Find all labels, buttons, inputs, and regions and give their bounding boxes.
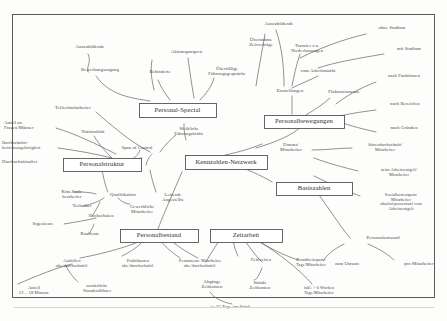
connector-line — [312, 148, 352, 150]
leaf-label-durchschnittsalter[interactable]: Durchschnittsalter — [2, 160, 58, 165]
leaf-label-inkl_6_wochen[interactable]: inkl. > 6 Wochen Tage/Mitarbeiter — [290, 286, 348, 295]
leaf-label-anteil_frauen[interactable]: Anteil an Frauen/Männer — [4, 121, 52, 131]
leaf-label-kfm_sach[interactable]: Kfm.Sach- bearbeiter — [50, 190, 94, 200]
connector-line — [150, 170, 156, 192]
page-edge-shadow — [14, 307, 434, 308]
leaf-label-techniker[interactable]: Techniker — [62, 204, 102, 209]
leaf-label-uebernahme[interactable]: Übernahme Zeitverträge — [236, 38, 286, 48]
leaf-label-durchschnitt_bz[interactable]: Durchschnitts- betriebszugehörigkeit — [2, 141, 68, 150]
leaf-label-jahresdurch[interactable]: Jahresdurchschnitt/ Mitarbeiter — [354, 143, 416, 152]
leaf-label-aktionsparquete[interactable]: Aktionsparquete — [160, 50, 214, 55]
leaf-label-praktikanten[interactable]: Praktikanten abs./durchschnittl. — [108, 259, 168, 268]
leaf-label-behinderte[interactable]: Behinderte — [139, 70, 181, 75]
leaf-label-mit_studium[interactable]: mit Studium — [386, 47, 432, 52]
connector-line — [210, 292, 232, 304]
leaf-label-fluktuationsrate[interactable]: Fluktuationsrate — [318, 90, 370, 95]
node-label-personalstruktur: Personalstruktur — [63, 160, 141, 167]
node-label-basiszahlen: Basiszahlen — [276, 184, 352, 191]
diagram-canvas: Kennzahlen-NetzwerkPersonal-SpecialPerso… — [0, 0, 447, 321]
leaf-label-netto_ae[interactable]: netto Arbeitsentgelt/ Mitarbeiter — [368, 168, 430, 177]
connector-line — [96, 76, 150, 101]
leaf-label-anteil_12_18[interactable]: Anteil 12 – 18 Monate — [8, 286, 60, 296]
leaf-label-umsatz_ma[interactable]: Umsatz/ Mitarbeiter — [268, 143, 314, 153]
leaf-label-zusaetzliche[interactable]: zusätzliche Stundenlöhner — [72, 284, 122, 294]
leaf-label-ausbildende[interactable]: Auszubildende — [64, 45, 116, 50]
leaf-label-krankheitsquote[interactable]: Krankheitsquote Tage/Mitarbeiter — [282, 258, 340, 267]
node-label-zeitarbeit: Zeitarbeit — [210, 231, 282, 238]
leaf-label-vom_arbeitsmarkt[interactable]: vom Arbeitsmarkt — [290, 69, 346, 74]
connector-line — [151, 60, 154, 90]
connector-line — [225, 144, 262, 155]
leaf-label-personalaufwand[interactable]: Personalaufwand — [355, 236, 411, 241]
connector-line — [160, 135, 176, 152]
leaf-label-einstellungen[interactable]: Einstellungen — [266, 89, 314, 94]
leaf-label-gewerbliche[interactable]: Gewerbliche Mitarbeiter — [118, 205, 166, 215]
leaf-label-hochschulen[interactable]: Hochschulen — [78, 214, 124, 219]
connector-line — [340, 110, 376, 116]
node-label-personalbewegungen: Personalbewegungen — [264, 117, 344, 124]
leaf-label-abgaenge[interactable]: Abgänge Zeitkonten — [190, 280, 234, 290]
leaf-label-permanente[interactable]: Permanente Mitarbeiter abs./durchschnitt… — [162, 259, 238, 268]
connector-line — [314, 158, 358, 171]
connector-line — [146, 154, 152, 165]
connector-line — [254, 268, 262, 280]
leaf-label-pro_mitarbeiter[interactable]: pro Mitarbeiter — [394, 262, 444, 267]
connector-line — [292, 76, 318, 88]
leaf-label-aushilfen[interactable]: Aushilfen abs./durchschnittl. — [42, 259, 102, 268]
node-label-personalbestand: Personalbestand — [120, 231, 198, 238]
leaf-label-teilzeit[interactable]: Teilzeitmitarbeiter — [44, 106, 102, 111]
leaf-label-ueberfaellige[interactable]: Überfällige Führungsgespräche — [196, 67, 258, 77]
leaf-label-nach_bereichen[interactable]: nach Bereichen — [378, 102, 432, 107]
leaf-label-bewerbungszugang[interactable]: Bewerbungszugang — [70, 68, 130, 73]
leaf-label-sozialkosten[interactable]: Sozialkostenquote Mitarbeiter absolut/pr… — [366, 193, 436, 211]
connector-line — [188, 58, 194, 98]
leaf-label-kaufleute[interactable]: Kaufleute — [70, 232, 110, 237]
leaf-label-ingenieure[interactable]: Ingenieure — [22, 222, 64, 227]
leaf-label-staende[interactable]: Stände Zeitkonten — [238, 281, 282, 291]
leaf-label-weibliche[interactable]: Weibliche Führungskräfte — [163, 127, 215, 137]
leaf-label-qualifikation[interactable]: Qualifikation — [100, 193, 146, 198]
leaf-label-fehlzeiten[interactable]: Fehlzeiten — [240, 258, 282, 263]
leaf-label-auszubildende2[interactable]: Auszubildende — [253, 22, 305, 27]
leaf-label-ohne_studium[interactable]: ohne Studium — [368, 26, 416, 31]
connector-line — [158, 80, 170, 100]
leaf-label-leitende[interactable]: Leitende Angestellte — [150, 193, 196, 203]
connector-line — [102, 170, 108, 192]
connector-line — [368, 244, 394, 260]
connector-line — [318, 54, 384, 68]
leaf-label-nach_funktionen[interactable]: nach Funktionen — [376, 74, 432, 79]
leaf-label-nach_gruenden[interactable]: nach Gründen — [378, 126, 430, 131]
leaf-label-nationalitaet[interactable]: Nationalität — [72, 130, 114, 135]
leaf-label-transfer[interactable]: Transfer v.a. Niederlassungen — [280, 44, 334, 54]
connector-line — [306, 98, 330, 115]
connector-line — [66, 266, 78, 282]
connector-line — [200, 78, 214, 100]
node-label-personal_special: Personal-Special — [139, 106, 216, 113]
connector-line — [118, 198, 130, 204]
node-label-center: Kennzahlen-Netzwerk — [185, 158, 267, 165]
leaf-label-span_of_control[interactable]: Span of Control — [112, 146, 162, 151]
